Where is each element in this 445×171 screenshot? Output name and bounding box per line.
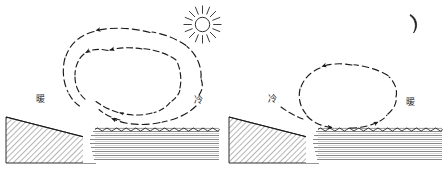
right-panel-land-label: 冷 [268,95,277,104]
right-sea-body [306,126,443,163]
left-panel-land-label: 暖 [36,95,45,104]
sea-land-breeze-figure [0,0,445,171]
left-panel-sea-label: 冷 [194,96,203,105]
left-sea-body [83,126,220,163]
right-panel-sea-label: 暖 [406,98,415,107]
